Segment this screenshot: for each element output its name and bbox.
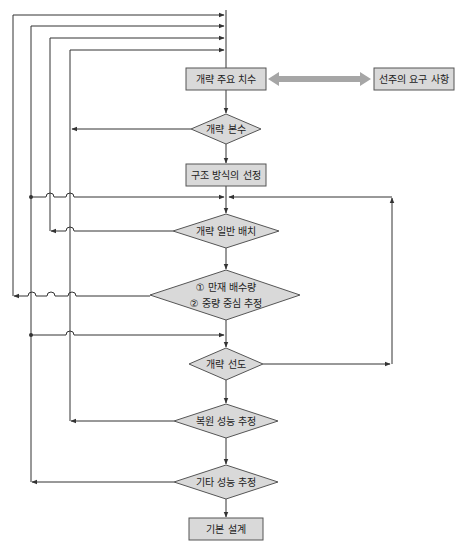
node-displacement-cog: ① 만재 배수량 ② 중량 중심 추정	[150, 270, 300, 320]
merge-into-general-arrangement	[29, 193, 224, 199]
svg-text:개략 주요 치수: 개략 주요 치수	[196, 74, 256, 85]
node-hull-form-coefficient: 개략 본수	[191, 114, 261, 144]
node-main-dimensions: 개략 주요 치수	[186, 68, 266, 90]
node-structure-selection: 구조 방식의 선정	[186, 164, 266, 186]
node-basic-design: 기본 설계	[189, 518, 263, 540]
svg-text:구조 방식의 선정: 구조 방식의 선정	[191, 170, 260, 181]
svg-text:선주의 요구 사항: 선주의 요구 사항	[379, 74, 448, 85]
design-spiral-flowchart: 개략 주요 치수 선주의 요구 사항 개략 본수 구조 방식의 선정 개략 일반…	[0, 0, 468, 556]
double-arrow	[268, 72, 371, 86]
svg-text:개략 일반 배치: 개략 일반 배치	[196, 226, 256, 237]
merge-into-lines-plan	[29, 331, 224, 337]
feedback-loop-displacement	[13, 15, 224, 296]
feedback-loop-general-arrangement	[50, 38, 224, 231]
svg-text:복원 성능 추정: 복원 성능 추정	[196, 416, 256, 427]
node-general-arrangement: 개략 일반 배치	[173, 214, 279, 248]
svg-text:개략 선도: 개략 선도	[206, 359, 245, 370]
node-stability-estimate: 복원 성능 추정	[174, 404, 278, 438]
node-owner-requirements: 선주의 요구 사항	[374, 68, 454, 90]
svg-text:① 만재 배수량: ① 만재 배수량	[196, 282, 256, 293]
svg-text:② 중량 중심 추정: ② 중량 중심 추정	[190, 298, 263, 309]
svg-text:개략 본수: 개략 본수	[206, 124, 245, 135]
svg-text:기본 설계: 기본 설계	[206, 524, 245, 535]
node-lines-plan: 개략 선도	[189, 348, 263, 380]
node-other-performance: 기타 성능 추정	[174, 465, 278, 499]
svg-text:기타 성능 추정: 기타 성능 추정	[196, 477, 256, 488]
